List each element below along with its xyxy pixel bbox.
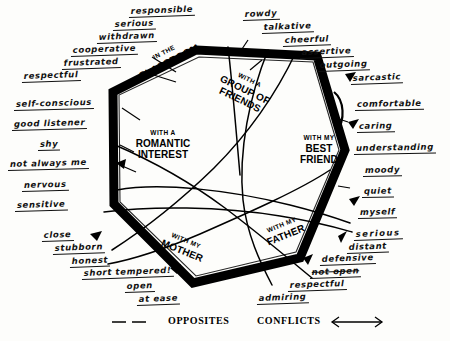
word-item: cheerful <box>283 33 332 47</box>
legend-conflicts-label: CONFLICTS <box>257 315 321 326</box>
hex-label-romantic-big2: INTEREST <box>120 149 206 160</box>
hex-label-friends: WITH A GROUP OF FRIENDS <box>214 63 277 116</box>
hex-label-best-friend-small: WITH MY <box>287 132 351 143</box>
word-item: admiring <box>257 291 309 305</box>
conflict-arrowheads <box>90 72 360 274</box>
word-item: responsible <box>129 4 196 18</box>
word-item: assertive <box>300 45 354 59</box>
hex-label-romantic-small: WITH A <box>120 127 206 138</box>
word-item: serious <box>354 227 403 241</box>
word-item: serious <box>113 18 156 31</box>
word-item: respectful <box>288 278 347 292</box>
word-item: moody <box>363 164 402 177</box>
hex-label-best-friend-big2: FRIEND <box>287 154 351 165</box>
diagram-canvas: IN THE CLASSROOM WITH A GROUP OF FRIENDS… <box>0 0 450 341</box>
word-item: talkative <box>262 20 314 34</box>
word-item: rowdy <box>243 8 280 21</box>
legend-opposites-label: OPPOSITES <box>168 315 230 326</box>
word-item: close <box>42 229 74 242</box>
word-item: open <box>125 280 156 293</box>
word-item: at ease <box>137 292 181 306</box>
hex-label-father: WITH MY FATHER <box>261 212 306 247</box>
legend-conflicts-arrow <box>332 317 382 327</box>
word-item: not always me <box>8 157 89 171</box>
word-item: myself <box>358 206 398 219</box>
word-item: caring <box>357 120 395 133</box>
hex-label-best-friend-big: BEST <box>287 143 351 154</box>
hex-label-romantic: WITH A ROMANTIC INTEREST <box>120 127 206 160</box>
word-item: outgoing <box>318 58 370 72</box>
word-item: frustrated <box>62 56 121 70</box>
legend-graphics <box>112 317 382 327</box>
word-item: shy <box>38 138 61 151</box>
right-vertex-hook <box>334 92 343 132</box>
word-item: honest <box>70 255 111 268</box>
hex-label-best-friend: WITH MY BEST FRIEND <box>287 132 351 165</box>
word-item: sensitive <box>15 199 68 212</box>
word-item: stubborn <box>53 241 106 255</box>
word-item: cooperative <box>71 43 139 57</box>
word-item: nervous <box>22 179 69 192</box>
word-item: sarcastic <box>351 71 404 85</box>
word-item: self-conscious <box>14 97 94 111</box>
word-item: respectful <box>22 69 81 83</box>
word-item: withdrawn <box>97 30 158 44</box>
word-item: short tempered! <box>82 265 174 280</box>
word-item: defensive <box>320 252 376 266</box>
word-item: not open <box>310 265 362 279</box>
hex-label-mother: WITH MY MOTHER <box>160 227 209 264</box>
word-item: quiet <box>362 185 394 198</box>
word-item: good listener <box>12 117 88 131</box>
hex-label-romantic-big: ROMANTIC <box>120 138 206 149</box>
word-item: understanding <box>354 142 436 155</box>
word-item: comfortable <box>355 98 424 111</box>
